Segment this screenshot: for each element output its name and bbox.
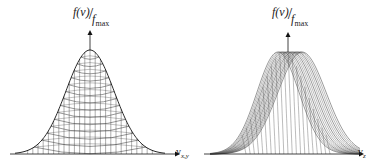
left-x-axis-label: vx,y (176, 146, 189, 160)
left-y-axis-label: f(v)/fmax (73, 2, 109, 21)
right-plot: f(v)/fmax vz (190, 0, 380, 166)
right-x-axis-label: vz (358, 146, 366, 160)
right-y-axis-label: f(v)/fmax (272, 2, 308, 21)
left-plot: f(v)/fmax vx,y (0, 0, 190, 166)
right-gaussian-surface (190, 0, 380, 166)
